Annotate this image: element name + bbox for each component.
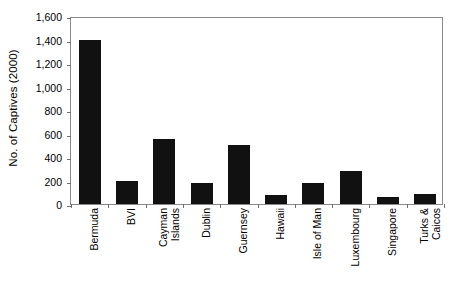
x-axis-tick-label: Luxembourg xyxy=(350,208,364,303)
bar xyxy=(377,197,399,204)
bar xyxy=(414,194,436,204)
x-axis-tick-label-line: Isle of Man xyxy=(312,208,324,303)
x-axis-tick-label: Guernsey xyxy=(238,208,252,303)
x-axis-tick-label: Bermuda xyxy=(89,208,103,303)
x-axis-tick-label: Hawaii xyxy=(275,208,289,303)
x-axis-tick-label-line: Cayman xyxy=(158,208,170,303)
y-axis-tick-label: 1,000 xyxy=(36,82,62,94)
bar xyxy=(228,145,250,204)
x-axis-tick-label-line: Bermuda xyxy=(89,208,101,303)
y-axis-tick-label: 400 xyxy=(44,152,62,164)
bar xyxy=(302,183,324,204)
x-axis-tick-label-line: BVI xyxy=(126,208,138,303)
x-axis-tick-label: Dublin xyxy=(201,208,215,303)
x-axis-tick-label: Isle of Man xyxy=(312,208,326,303)
bar xyxy=(79,40,101,205)
y-axis-tick-mark xyxy=(67,18,71,19)
x-axis-tick-label: Turks &Caicos xyxy=(419,208,433,303)
x-axis-tick-label: BVI xyxy=(126,208,140,303)
x-axis-tick-label: CaymanIslands xyxy=(158,208,172,303)
y-axis-tick-mark xyxy=(67,42,71,43)
x-axis-tick-label-line: Luxembourg xyxy=(350,208,362,303)
y-axis-tick-label: 200 xyxy=(44,176,62,188)
y-axis-tick-label: 1,600 xyxy=(36,11,62,23)
x-axis-tick-label-line: Singapore xyxy=(387,208,399,303)
y-axis-title-text: No. of Captives (2000) xyxy=(7,49,19,166)
y-axis-tick-label: 1,400 xyxy=(36,35,62,47)
bar-chart: No. of Captives (2000) 02004006008001,00… xyxy=(0,0,456,305)
x-axis-tick-label-line: Caicos xyxy=(431,208,443,303)
y-axis-tick-mark xyxy=(67,183,71,184)
x-axis-tick-label-line: Guernsey xyxy=(238,208,250,303)
y-axis-tick-labels: 02004006008001,0001,2001,4001,600 xyxy=(26,0,66,215)
y-axis-tick-mark xyxy=(67,112,71,113)
x-axis-tick-label-line: Islands xyxy=(170,208,182,303)
x-axis-tick-label-line: Hawaii xyxy=(275,208,287,303)
x-axis-tick-label-line: Dublin xyxy=(201,208,213,303)
x-axis-tick-mark xyxy=(444,204,445,208)
x-axis-tick-label-line: Turks & xyxy=(419,208,431,303)
bar xyxy=(116,181,138,205)
y-axis-tick-label: 800 xyxy=(44,105,62,117)
y-axis-tick-label: 0 xyxy=(56,199,62,211)
y-axis-tick-label: 1,200 xyxy=(36,58,62,70)
y-axis-tick-label: 600 xyxy=(44,129,62,141)
bar xyxy=(265,195,287,204)
x-axis-tick-labels: BermudaBVICaymanIslandsDublinGuernseyHaw… xyxy=(70,208,443,303)
y-axis-tick-mark xyxy=(67,65,71,66)
y-axis-tick-mark xyxy=(67,159,71,160)
y-axis-tick-mark xyxy=(67,136,71,137)
bar xyxy=(191,183,213,204)
bar xyxy=(153,139,175,204)
plot-area xyxy=(70,17,443,205)
y-axis-tick-mark xyxy=(67,89,71,90)
x-axis-tick-label: Singapore xyxy=(387,208,401,303)
y-axis-title: No. of Captives (2000) xyxy=(0,0,26,215)
bar xyxy=(340,171,362,204)
